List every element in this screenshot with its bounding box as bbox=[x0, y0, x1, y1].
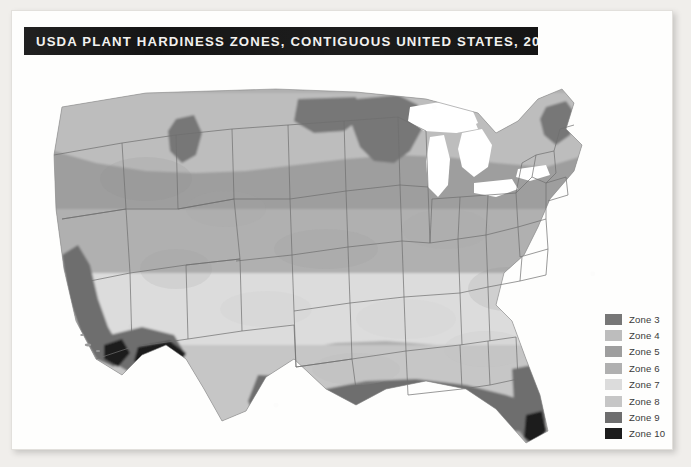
legend-item[interactable]: Zone 10 bbox=[594, 426, 668, 442]
page-title: USDA PLANT HARDINESS ZONES, CONTIGUOUS U… bbox=[24, 34, 538, 49]
zone-9-south-texas bbox=[248, 375, 326, 443]
map-title-bar: USDA PLANT HARDINESS ZONES, CONTIGUOUS U… bbox=[24, 27, 538, 55]
legend-swatch-zone-10 bbox=[605, 428, 622, 439]
legend-item[interactable]: Zone 7 bbox=[594, 377, 668, 393]
legend-label-zone-4: Zone 4 bbox=[629, 330, 660, 341]
legend-swatch-zone-8 bbox=[605, 396, 622, 407]
legend-item[interactable]: Zone 8 bbox=[594, 393, 668, 409]
legend-label-zone-8: Zone 8 bbox=[629, 396, 660, 407]
legend-label-zone-9: Zone 9 bbox=[629, 412, 660, 423]
screenshot-root: USDA PLANT HARDINESS ZONES, CONTIGUOUS U… bbox=[0, 0, 691, 467]
legend-swatch-zone-4 bbox=[605, 330, 622, 341]
legend-swatch-zone-3 bbox=[605, 314, 622, 325]
legend-swatch-zone-9 bbox=[605, 412, 622, 423]
legend-item[interactable]: Zone 3 bbox=[594, 311, 668, 327]
map-legend: Zone 3 Zone 4 Zone 5 Zone 6 Zone 7 Zone … bbox=[594, 311, 668, 442]
legend-swatch-zone-7 bbox=[605, 379, 622, 390]
legend-label-zone-10: Zone 10 bbox=[629, 428, 665, 439]
map-sheet: USDA PLANT HARDINESS ZONES, CONTIGUOUS U… bbox=[11, 10, 673, 450]
legend-swatch-zone-6 bbox=[605, 363, 622, 374]
legend-swatch-zone-5 bbox=[605, 346, 622, 357]
legend-label-zone-3: Zone 3 bbox=[629, 314, 660, 325]
legend-item[interactable]: Zone 5 bbox=[594, 344, 668, 360]
legend-item[interactable]: Zone 9 bbox=[594, 409, 668, 425]
legend-label-zone-5: Zone 5 bbox=[629, 346, 660, 357]
zone-10-rio-grande bbox=[272, 415, 292, 445]
hardiness-zone-map[interactable] bbox=[26, 59, 586, 447]
legend-item[interactable]: Zone 6 bbox=[594, 360, 668, 376]
legend-label-zone-7: Zone 7 bbox=[629, 379, 660, 390]
legend-label-zone-6: Zone 6 bbox=[629, 363, 660, 374]
legend-item[interactable]: Zone 4 bbox=[594, 327, 668, 343]
map-svg[interactable] bbox=[26, 59, 586, 447]
